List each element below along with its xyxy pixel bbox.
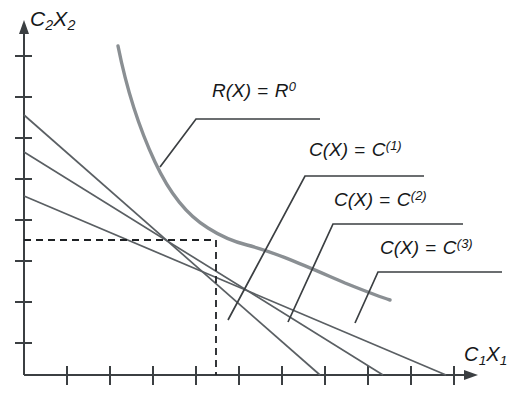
curve-label-r0-eq: =	[251, 80, 275, 101]
curve-label-c3-sup: (3)	[456, 236, 472, 251]
up-arrow-icon	[19, 20, 29, 34]
isoquant-isocost-svg	[0, 0, 522, 398]
right-arrow-icon	[464, 370, 478, 380]
curve-label-c2-sup: (2)	[410, 188, 426, 203]
isocost-line-c1	[24, 115, 320, 375]
isocost-line-c2	[24, 152, 383, 375]
leader-line-r0	[160, 119, 320, 167]
x-axis-label-x-sub: 1	[500, 353, 508, 368]
x-axis-label: C1X1	[464, 344, 507, 367]
curve-label-c2: C(X) = C(2)	[334, 190, 427, 209]
curve-label-r0: R(X) = R0	[212, 81, 296, 100]
curve-label-c3-base: C	[443, 237, 457, 258]
curve-label-c2-fn: C(X)	[334, 189, 373, 210]
y-axis-label: C2X2	[30, 8, 75, 32]
curve-label-c3-eq: =	[419, 237, 443, 258]
isocost-line-c3	[24, 196, 446, 375]
x-axis-label-x: X	[486, 343, 499, 365]
y-axis-label-x-sub: 2	[67, 17, 75, 33]
x-axis-label-c: C	[464, 343, 478, 365]
curve-label-r0-base: R	[275, 80, 289, 101]
figure-canvas: C2X2 C1X1 R(X) = R0 C(X) = C(1) C(X) = C…	[0, 0, 522, 398]
curve-label-r0-fn: R(X)	[212, 80, 251, 101]
curve-label-c1-eq: =	[348, 139, 372, 160]
y-axis-label-x: X	[53, 7, 67, 30]
y-axis-label-c: C	[30, 7, 45, 30]
curve-label-c2-base: C	[397, 189, 411, 210]
curve-label-r0-sup: 0	[288, 79, 296, 94]
curve-label-c3-fn: C(X)	[380, 237, 419, 258]
curve-label-c1: C(X) = C(1)	[309, 140, 402, 159]
curve-label-c3: C(X) = C(3)	[380, 238, 473, 257]
tangency-guides-group	[24, 240, 216, 375]
leader-line-c3	[355, 272, 502, 323]
curve-label-c1-base: C	[372, 139, 386, 160]
curve-label-c2-eq: =	[373, 189, 397, 210]
curve-label-c1-fn: C(X)	[309, 139, 348, 160]
curve-label-c1-sup: (1)	[385, 138, 401, 153]
